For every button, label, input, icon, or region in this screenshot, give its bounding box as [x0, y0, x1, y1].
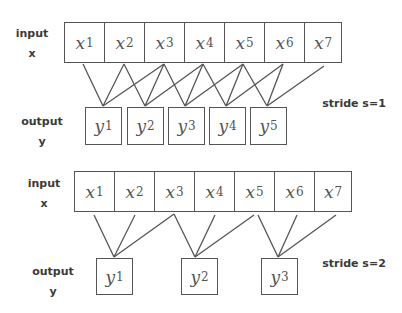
- output-label: output: [18, 115, 66, 128]
- input-var-label: x: [24, 197, 64, 210]
- output-cell: y5: [250, 107, 287, 145]
- stride-label: stride s=2: [318, 257, 390, 270]
- input-cell: x4: [184, 22, 225, 63]
- input-cell: x7: [314, 171, 352, 212]
- convolution-stride-diagram: input x output y stride s=1 x1 x2 x3 x4 …: [0, 0, 402, 313]
- output-cell: y2: [127, 107, 164, 145]
- input-var-label: x: [12, 47, 52, 60]
- input-cell: x5: [234, 171, 275, 212]
- output-cell: y3: [168, 107, 205, 145]
- input-cell: x3: [144, 22, 185, 63]
- input-cell: x6: [274, 171, 315, 212]
- output-cell: y3: [261, 258, 298, 295]
- stride-label: stride s=1: [318, 97, 390, 110]
- input-cell: x2: [104, 22, 145, 63]
- output-var-label: y: [29, 285, 77, 298]
- input-cell: x5: [224, 22, 265, 63]
- input-cell: x4: [194, 171, 235, 212]
- input-cell: x1: [64, 22, 105, 63]
- input-cell: x3: [154, 171, 195, 212]
- output-var-label: y: [18, 135, 66, 148]
- input-cell: x2: [114, 171, 155, 212]
- input-cell: x7: [304, 22, 342, 63]
- input-cell: x6: [264, 22, 305, 63]
- input-label: input: [24, 177, 64, 190]
- output-cell: y2: [181, 258, 218, 295]
- output-cell: y1: [85, 107, 122, 145]
- output-cell: y4: [209, 107, 246, 145]
- input-label: input: [12, 27, 52, 40]
- output-label: output: [29, 265, 77, 278]
- input-cell: x1: [74, 171, 115, 212]
- output-cell: y1: [96, 258, 133, 295]
